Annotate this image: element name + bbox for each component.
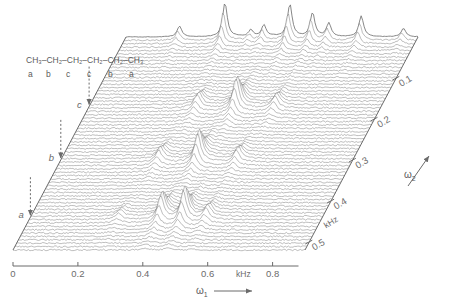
omega2-subscript: 2 xyxy=(412,175,416,182)
omega2-tick-label: 0.4 xyxy=(331,195,348,211)
stack-trace xyxy=(22,227,314,234)
assignment-c1: c xyxy=(66,70,87,79)
omega1-tick-label: 0.6 xyxy=(201,268,214,279)
omega2-axis-line xyxy=(305,37,418,250)
omega2-tick-label: 0.1 xyxy=(397,72,414,88)
stack-trace xyxy=(43,189,335,193)
stack-trace xyxy=(13,248,305,251)
assignment-c2: c xyxy=(87,70,108,79)
omega2-tick-label: 0.3 xyxy=(353,154,370,170)
assignment-b2: b xyxy=(108,70,129,79)
omega2-axis-name: ω2 xyxy=(404,170,416,182)
omega1-x-axis: 00.20.40.60.8kHz xyxy=(10,262,298,291)
omega2-unit-label: kHz xyxy=(322,214,340,230)
omega1-tick-label: 0.8 xyxy=(266,268,279,279)
omega1-symbol: ω xyxy=(196,285,204,296)
omega2-diagonal-axis: 0.10.20.30.40.5kHz xyxy=(305,37,429,253)
marker-label-a: a xyxy=(18,209,23,220)
marker-label-b: b xyxy=(49,152,54,163)
omega1-tick-label: 0.4 xyxy=(136,268,149,279)
omega1-subscript: 1 xyxy=(204,291,208,298)
assignment-markers: abc xyxy=(18,67,89,221)
structure-assignments: abccba xyxy=(28,70,147,79)
stack-trace xyxy=(15,244,307,248)
omega1-tick-label: 0.2 xyxy=(71,268,84,279)
omega2-tick-label: 0.5 xyxy=(310,236,327,252)
nmr-stacked-plot-figure: 0.10.20.30.40.5kHz 00.20.40.60.8kHz abc xyxy=(0,0,469,306)
omega1-unit-label: kHz xyxy=(236,269,251,279)
structure-formula: CH₃–CH₂–CH₂–CH₂–CH₂–CH₃ xyxy=(26,56,143,65)
stack-trace xyxy=(17,240,309,244)
projection-trace xyxy=(126,4,418,37)
assignment-b1: b xyxy=(46,70,66,79)
stack-trace xyxy=(106,71,398,74)
stack-trace xyxy=(113,58,405,62)
assignment-a2: a xyxy=(129,70,147,79)
stack-trace xyxy=(47,183,339,187)
marker-label-c: c xyxy=(77,99,82,110)
stack-trace xyxy=(115,53,407,58)
stack-trace xyxy=(110,65,402,68)
omega2-symbol: ω xyxy=(404,169,412,180)
omega1-axis-name: ω1 xyxy=(196,286,208,298)
assignment-a1: a xyxy=(28,70,46,79)
omega1-tick-label: 0 xyxy=(10,268,15,279)
omega2-tick-label: 0.2 xyxy=(375,113,392,129)
stack-trace xyxy=(112,61,404,65)
stack-trace xyxy=(108,69,400,72)
spectrum-trace-stack xyxy=(13,4,418,251)
